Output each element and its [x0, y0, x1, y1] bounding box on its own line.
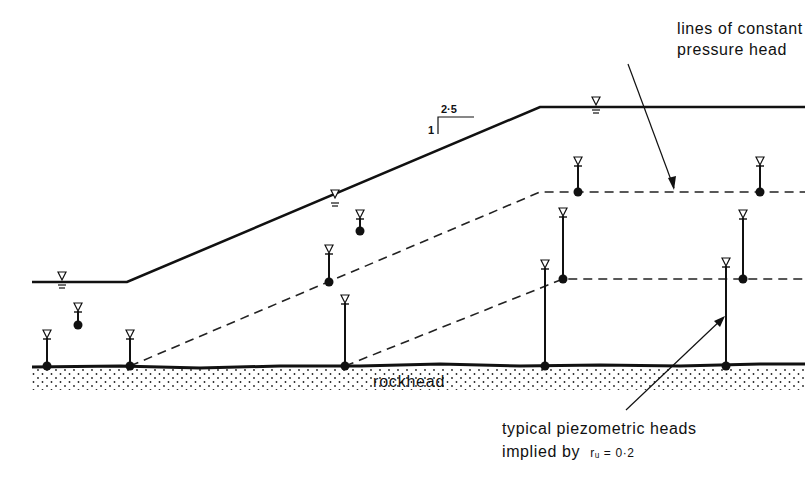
water-level-triangle-icon	[541, 260, 549, 268]
piezometer-1	[43, 330, 52, 371]
water-table-marker-left	[58, 272, 66, 288]
piezometer-tip-dot	[74, 321, 83, 330]
water-level-triangle-icon	[574, 157, 582, 165]
pressure-head-label-line1: lines of constant	[677, 18, 803, 39]
slope-horizontal-value: 2·5	[441, 103, 457, 115]
piezometer-8	[559, 208, 568, 284]
leader-arrow-piezometric-heads	[626, 316, 725, 410]
piezometer-tip-dot	[541, 362, 550, 371]
piezometer-6	[341, 295, 350, 371]
piezometer-7	[541, 260, 550, 371]
piezometer-tip-dot	[574, 188, 583, 197]
pressure-head-label-line2: pressure head	[677, 39, 803, 60]
water-level-triangle-icon	[739, 210, 747, 218]
ru-expression: rᵤ = 0·2	[590, 446, 634, 460]
pressure-head-label: lines of constant pressure head	[677, 18, 803, 60]
slope-vertical-value: 1	[428, 124, 434, 136]
piezometer-9	[574, 157, 583, 197]
piezometric-heads-label-line1: typical piezometric heads	[502, 417, 697, 440]
water-level-triangle-icon	[126, 330, 134, 338]
water-table-marker-crest	[592, 97, 600, 113]
piezometer-12	[756, 157, 765, 197]
piezometer-tip-dot	[43, 362, 52, 371]
piezometer-tip-dot	[739, 275, 748, 284]
piezometer-tip-dot	[559, 275, 568, 284]
water-table-marker-slope	[331, 190, 339, 206]
piezometer-tip-dot	[722, 362, 731, 371]
piezometer-tip-dot	[356, 227, 365, 236]
water-level-triangle-icon	[722, 258, 730, 266]
piezometer-10	[722, 258, 731, 371]
water-level-triangle-icon	[74, 303, 82, 311]
piezometers	[43, 157, 765, 371]
piezometer-tip-dot	[341, 362, 350, 371]
water-level-triangle-icon	[756, 157, 764, 165]
piezometer-tip-dot	[126, 362, 135, 371]
water-level-triangle-icon	[559, 208, 567, 216]
piezometer-4	[325, 245, 334, 287]
water-level-triangle-icon	[356, 210, 364, 218]
rockhead-label: rockhead	[373, 373, 445, 391]
water-level-triangle-icon	[325, 245, 333, 253]
piezometer-tip-dot	[325, 278, 334, 287]
piezometric-heads-label: typical piezometric heads implied by rᵤ …	[502, 417, 697, 465]
slope-piezometer-diagram	[0, 0, 811, 479]
water-level-triangle-icon	[43, 330, 51, 338]
implied-by-text: implied by	[502, 443, 580, 460]
pressure-head-line-lower	[345, 279, 805, 366]
leader-arrow-pressure-head	[628, 64, 676, 190]
piezometer-tip-dot	[756, 188, 765, 197]
ground-surface-line	[32, 107, 805, 282]
piezometer-3	[126, 330, 135, 371]
water-level-triangle-icon	[341, 295, 349, 303]
slope-ratio-indicator	[438, 117, 474, 134]
piezometer-5	[356, 210, 365, 236]
piezometer-2	[74, 303, 83, 330]
piezometric-heads-label-line2: implied by rᵤ = 0·2	[502, 440, 697, 465]
piezometer-11	[739, 210, 748, 284]
